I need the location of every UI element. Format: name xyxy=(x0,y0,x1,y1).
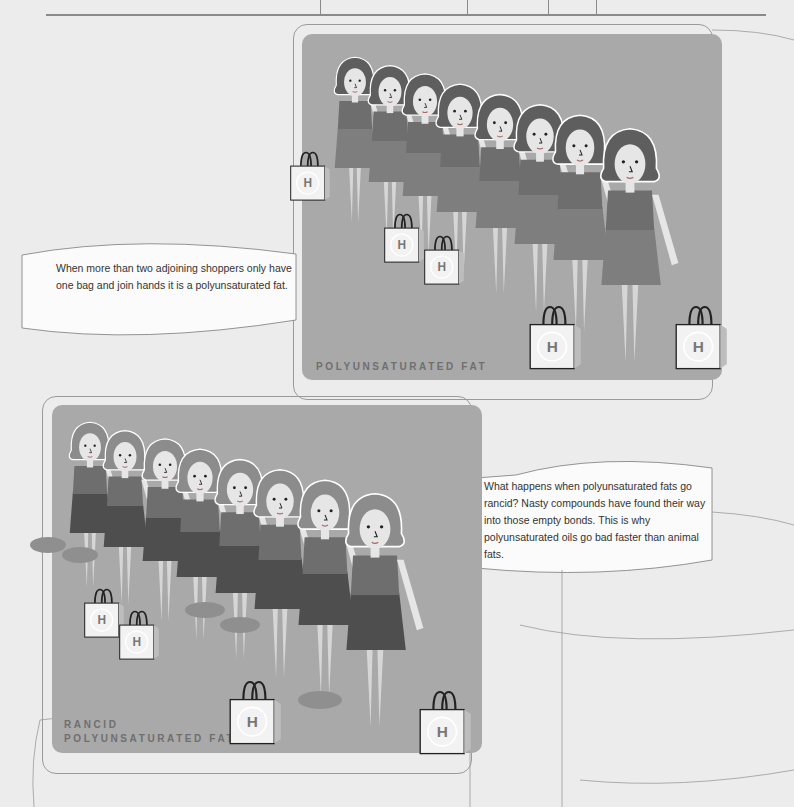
illustration: H xyxy=(0,0,794,807)
